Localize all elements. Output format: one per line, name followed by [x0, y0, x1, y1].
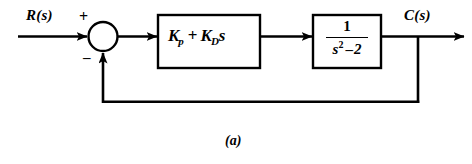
denominator-operator: –: [345, 41, 353, 57]
plant-transfer-function-expression: 1 s2–2: [313, 19, 381, 58]
derivative-gain-subscript: D: [211, 35, 219, 47]
proportional-gain-subscript: p: [178, 35, 184, 47]
denominator-exponent: 2: [338, 39, 343, 50]
plant-numerator: 1: [313, 19, 381, 35]
input-signal-label: R(s): [26, 8, 53, 23]
plant-denominator: s2–2: [313, 40, 381, 57]
pd-controller-expression: Kp+KDs: [168, 27, 225, 47]
denominator-constant: 2: [354, 41, 362, 57]
derivative-variable-symbol: s: [219, 26, 226, 45]
figure-caption: (a): [225, 134, 241, 148]
block-diagram-figure: R(s) C(s) + – Kp+KDs 1 s2–2 (a): [0, 0, 472, 164]
summing-junction-minus-sign: –: [83, 50, 91, 65]
controller-plus-operator: +: [188, 26, 198, 45]
summing-junction-plus-sign: +: [79, 9, 88, 25]
fraction-bar: [326, 37, 368, 39]
output-signal-label: C(s): [404, 8, 431, 23]
summing-junction-circle: [89, 22, 118, 51]
